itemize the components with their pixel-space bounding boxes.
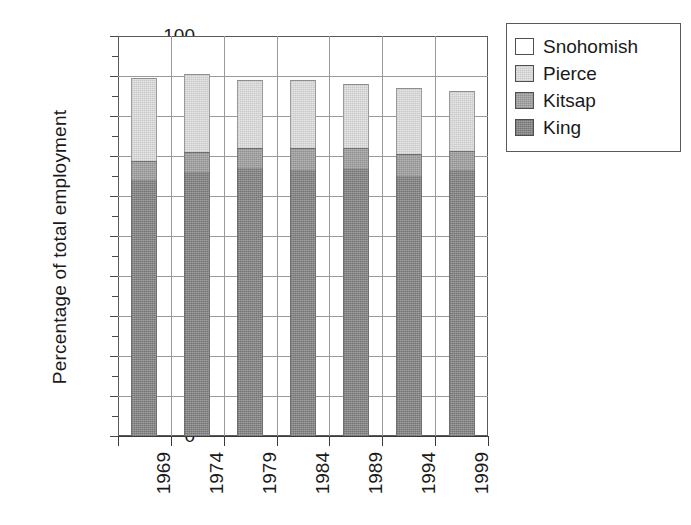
legend-swatch-icon: [515, 65, 534, 82]
bar-segment-kitsap: [396, 154, 422, 176]
gridline-vertical: [171, 36, 172, 436]
legend-item-king[interactable]: King: [515, 114, 672, 141]
y-tick-mark: [110, 316, 118, 317]
x-tick-mark: [329, 437, 330, 446]
x-tick-mark: [224, 437, 225, 446]
bar-segment-snohomish: [184, 36, 210, 74]
y-tick-mark: [110, 36, 118, 37]
bar-segment-snohomish: [290, 36, 316, 80]
legend-item-pierce[interactable]: Pierce: [515, 60, 672, 87]
x-tick-mark: [171, 437, 172, 446]
bar-segment-king: [184, 172, 210, 436]
stacked-bar-chart-figure: Percentage of total employment 010203040…: [0, 0, 691, 525]
x-tick-label: 1979: [259, 452, 281, 522]
x-tick-label: 1969: [153, 452, 175, 522]
legend-item-label: Kitsap: [543, 91, 596, 110]
bar-segment-snohomish: [131, 36, 157, 78]
y-tick-mark: [110, 236, 118, 237]
chart-legend: SnohomishPierceKitsapKing: [506, 23, 681, 152]
x-tick-label: 1974: [206, 452, 228, 522]
plot-area: [118, 36, 488, 436]
x-axis-line: [118, 436, 489, 437]
bar-1969: [131, 36, 157, 436]
x-tick-mark: [382, 437, 383, 446]
y-tick-mark: [110, 76, 118, 77]
bar-segment-pierce: [237, 80, 263, 148]
legend-item-snohomish[interactable]: Snohomish: [515, 33, 672, 60]
x-tick-mark: [118, 437, 119, 446]
bar-segment-kitsap: [290, 148, 316, 170]
bar-segment-kitsap: [343, 148, 369, 169]
x-tick-mark: [277, 437, 278, 446]
bar-segment-king: [290, 170, 316, 436]
y-axis-title: Percentage of total employment: [49, 37, 71, 457]
bar-1999: [449, 36, 475, 436]
bar-segment-king: [343, 169, 369, 436]
bar-segment-snohomish: [237, 36, 263, 80]
gridline-vertical: [329, 36, 330, 436]
y-tick-mark: [110, 196, 118, 197]
y-tick-mark: [110, 436, 118, 437]
legend-item-label: Snohomish: [543, 37, 638, 56]
bar-segment-snohomish: [449, 36, 475, 91]
x-tick-label: 1984: [312, 452, 334, 522]
gridline-vertical: [224, 36, 225, 436]
x-tick-mark: [488, 437, 489, 446]
x-tick-label: 1989: [365, 452, 387, 522]
bar-segment-pierce: [290, 80, 316, 148]
y-tick-mark: [110, 116, 118, 117]
bar-1974: [184, 36, 210, 436]
y-tick-mark: [110, 396, 118, 397]
bar-segment-snohomish: [343, 36, 369, 84]
legend-swatch-icon: [515, 38, 534, 55]
bar-segment-king: [449, 170, 475, 436]
x-tick-label: 1994: [418, 452, 440, 522]
legend-swatch-icon: [515, 92, 534, 109]
bar-segment-pierce: [131, 78, 157, 161]
gridline-vertical: [435, 36, 436, 436]
bar-segment-kitsap: [184, 152, 210, 172]
x-tick-mark: [435, 437, 436, 446]
bar-1984: [290, 36, 316, 436]
bar-segment-pierce: [396, 88, 422, 154]
bar-segment-pierce: [343, 84, 369, 148]
bar-segment-snohomish: [396, 36, 422, 88]
bar-segment-king: [396, 176, 422, 436]
legend-item-label: Pierce: [543, 64, 597, 83]
bar-segment-kitsap: [449, 151, 475, 170]
gridline-vertical: [277, 36, 278, 436]
bar-segment-kitsap: [131, 161, 157, 180]
bar-segment-kitsap: [237, 148, 263, 168]
legend-swatch-icon: [515, 119, 534, 136]
y-tick-mark: [110, 356, 118, 357]
bar-1994: [396, 36, 422, 436]
bar-segment-pierce: [184, 74, 210, 152]
y-tick-mark: [110, 156, 118, 157]
legend-item-label: King: [543, 118, 581, 137]
y-tick-mark: [110, 276, 118, 277]
bar-1989: [343, 36, 369, 436]
bar-segment-pierce: [449, 91, 475, 151]
bar-1979: [237, 36, 263, 436]
bar-segment-king: [131, 180, 157, 436]
bar-segment-king: [237, 168, 263, 436]
x-tick-label: 1999: [471, 452, 493, 522]
legend-item-kitsap[interactable]: Kitsap: [515, 87, 672, 114]
gridline-vertical: [382, 36, 383, 436]
